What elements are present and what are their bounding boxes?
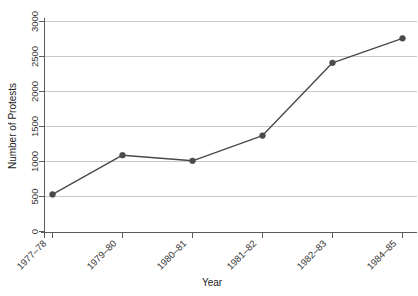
- data-point: [190, 158, 196, 164]
- y-tick-label-3000: 3000: [29, 11, 40, 32]
- y-tick-label-1000: 1000: [29, 151, 40, 172]
- series-polyline: [53, 38, 403, 194]
- y-tick-labels: 0 500 1000 1500 2000 2500 3000: [29, 11, 40, 234]
- data-point: [260, 133, 266, 139]
- y-tick-label-2500: 2500: [29, 46, 40, 67]
- data-point: [50, 192, 56, 198]
- x-axis-title: Year: [202, 277, 223, 288]
- y-axis-title: Number of Protests: [7, 83, 18, 169]
- gridlines: [45, 22, 418, 197]
- data-point: [400, 35, 406, 41]
- y-tick-label-0: 0: [29, 229, 40, 234]
- x-tick-label-2: 1980–81: [154, 238, 188, 272]
- data-point: [120, 152, 126, 158]
- x-tick-label-4: 1982–83: [294, 238, 328, 272]
- data-series-protests: [50, 35, 406, 197]
- x-tick-label-3: 1981–82: [224, 238, 258, 272]
- series-markers: [50, 35, 406, 197]
- data-point: [330, 60, 336, 66]
- chart-container: 0 500 1000 1500 2000 2500 3000 1977–78 1…: [0, 0, 418, 296]
- line-chart: 0 500 1000 1500 2000 2500 3000 1977–78 1…: [0, 0, 418, 296]
- x-tick-label-0: 1977–78: [14, 238, 48, 272]
- x-tick-label-5: 1984–85: [364, 238, 398, 272]
- y-tick-marks: [39, 22, 45, 232]
- y-tick-label-1500: 1500: [29, 116, 40, 137]
- x-tick-labels: 1977–78 1979–80 1980–81 1981–82 1982–83 …: [14, 238, 398, 272]
- y-tick-label-2000: 2000: [29, 81, 40, 102]
- x-tick-marks: [53, 233, 403, 239]
- x-tick-label-1: 1979–80: [84, 238, 118, 272]
- y-tick-label-500: 500: [29, 189, 40, 205]
